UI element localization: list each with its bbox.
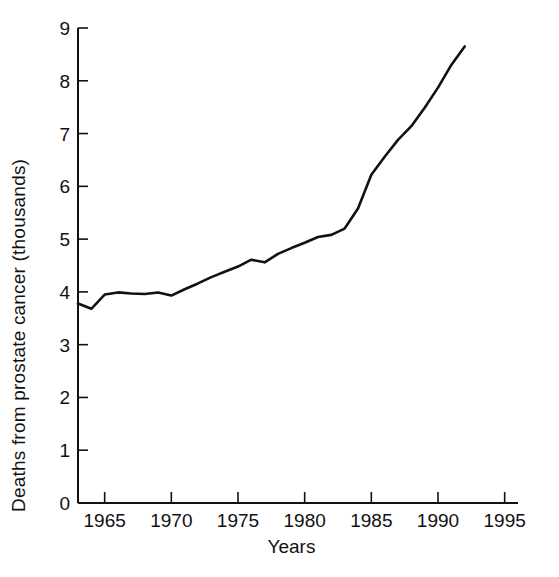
x-tick-label: 1980 [284, 510, 326, 531]
y-tick-label: 1 [59, 440, 70, 461]
x-tick-label: 1965 [84, 510, 126, 531]
y-tick-label: 7 [59, 124, 70, 145]
data-series-line [78, 46, 465, 308]
y-tick-label-group: 0123456789 [59, 18, 70, 514]
x-axis-title: Years [268, 536, 316, 558]
chart-figure: Deaths from prostate cancer (thousands) … [0, 0, 559, 577]
x-tick-label: 1995 [484, 510, 526, 531]
y-tick-label: 5 [59, 229, 70, 250]
y-tick-label: 9 [59, 18, 70, 39]
x-tick-label-group: 1965197019751980198519901995 [84, 510, 526, 531]
y-tick-label: 8 [59, 71, 70, 92]
x-tick-label: 1990 [417, 510, 459, 531]
x-axis-title-wrap: Years [0, 536, 559, 558]
x-tick-label: 1970 [150, 510, 192, 531]
x-tick-label: 1975 [217, 510, 259, 531]
y-tick-label: 6 [59, 176, 70, 197]
y-tick-mark-group [78, 28, 88, 503]
y-tick-label: 0 [59, 493, 70, 514]
y-tick-label: 2 [59, 387, 70, 408]
line-chart-plot: 0123456789 1965197019751980198519901995 [0, 0, 559, 577]
y-tick-label: 4 [59, 282, 70, 303]
y-axis-title: Deaths from prostate cancer (thousands) [8, 0, 30, 512]
x-tick-mark-group [105, 492, 505, 503]
x-tick-label: 1985 [350, 510, 392, 531]
y-tick-label: 3 [59, 335, 70, 356]
